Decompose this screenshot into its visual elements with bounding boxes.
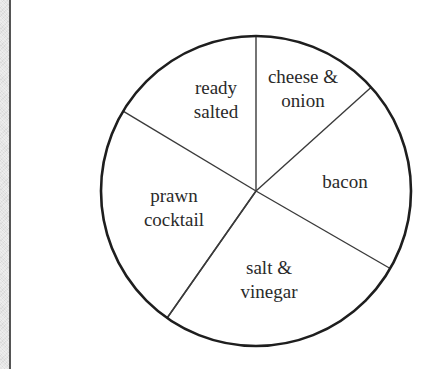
slice-bacon: bacon	[322, 171, 368, 192]
slice-label-prawn-cocktail-line1: prawn	[150, 185, 198, 206]
pie-chart: cheese & onion bacon salt & vinegar praw…	[0, 0, 424, 369]
slice-salt-vinegar: salt & vinegar	[241, 257, 299, 302]
slice-label-cheese-onion-line2: onion	[281, 90, 325, 111]
slice-label-ready-salted-line1: ready	[195, 77, 238, 98]
slice-label-bacon: bacon	[322, 171, 368, 192]
slice-label-prawn-cocktail-line2: cocktail	[144, 209, 204, 230]
slice-divider-line	[123, 111, 256, 191]
slice-label-ready-salted-line2: salted	[194, 101, 239, 122]
slice-label-cheese-onion-line1: cheese &	[268, 66, 338, 87]
slice-label-salt-vinegar-line1: salt &	[246, 257, 292, 278]
slice-prawn-cocktail: prawn cocktail	[144, 185, 204, 230]
slice-cheese-onion: cheese & onion	[268, 66, 338, 111]
slice-ready-salted: ready salted	[194, 77, 239, 122]
slice-label-salt-vinegar-line2: vinegar	[241, 281, 299, 302]
